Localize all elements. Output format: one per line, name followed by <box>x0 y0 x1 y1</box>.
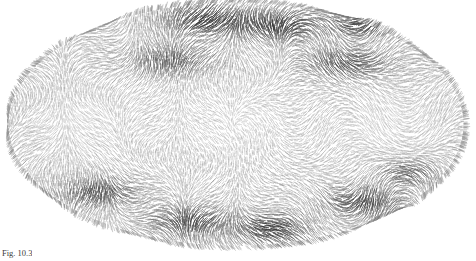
figure-container: Fig. 10.3 <box>0 0 476 261</box>
figure-caption: Fig. 10.3 <box>2 249 32 261</box>
vector-field-plot <box>0 0 476 261</box>
